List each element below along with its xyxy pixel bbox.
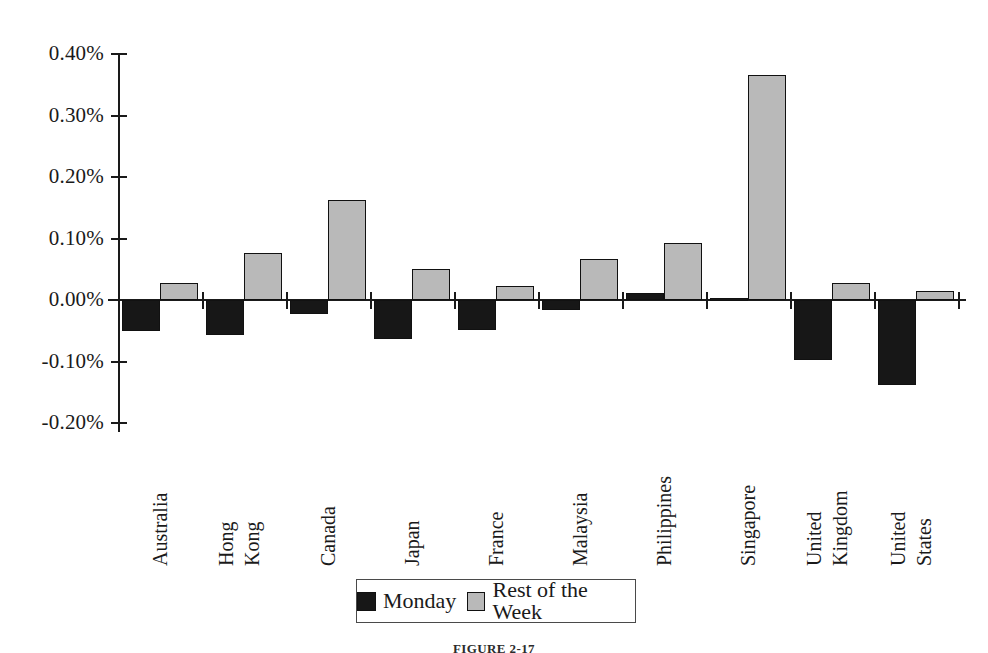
x-label-line: France	[486, 512, 506, 566]
bar-rest-of-week	[328, 200, 366, 300]
x-label-united-states: UnitedStates	[874, 440, 958, 566]
x-label-united-kingdom: UnitedKingdom	[790, 440, 874, 566]
x-label-line: Japan	[402, 520, 422, 566]
x-label-line: Singapore	[738, 485, 758, 566]
x-label-line: States	[914, 518, 934, 566]
x-label-line: United	[804, 512, 824, 566]
x-label-line: Canada	[318, 506, 338, 566]
bar-monday	[794, 300, 832, 360]
legend-item-monday: Monday	[357, 590, 456, 612]
bar-rest-of-week	[160, 283, 198, 300]
bar-rest-of-week	[748, 75, 786, 300]
y-tick-label: 0.10%	[18, 228, 104, 249]
y-tick-label: 0.00%	[18, 289, 104, 310]
x-label-line: Kong	[242, 522, 262, 566]
legend-label: Rest of the Week	[492, 579, 635, 623]
x-label-philippines: Philippines	[622, 440, 706, 566]
x-label-line: Kingdom	[830, 490, 850, 566]
y-tick-label: 0.40%	[18, 43, 104, 64]
x-label-france: France	[454, 440, 538, 566]
x-tick-mark	[958, 292, 960, 309]
plot-area	[118, 46, 958, 436]
x-label-line: Australia	[150, 493, 170, 566]
x-label-singapore: Singapore	[706, 440, 790, 566]
bar-monday	[626, 293, 664, 300]
bar-monday	[374, 300, 412, 339]
bar-rest-of-week	[580, 259, 618, 300]
x-label-malaysia: Malaysia	[538, 440, 622, 566]
bar-monday	[290, 300, 328, 314]
x-label-line: Hong	[216, 522, 236, 566]
bar-rest-of-week	[244, 253, 282, 300]
bar-rest-of-week	[916, 291, 954, 300]
bar-monday	[542, 300, 580, 310]
y-tick-label: 0.30%	[18, 105, 104, 126]
rest-of-week-swatch	[467, 592, 485, 611]
bar-rest-of-week	[412, 269, 450, 300]
chart-legend: MondayRest of the Week	[356, 579, 636, 623]
x-label-line: United	[888, 512, 908, 566]
monday-swatch	[357, 592, 376, 611]
x-label-australia: Australia	[118, 440, 202, 566]
figure-caption: FIGURE 2-17	[0, 641, 988, 653]
x-label-canada: Canada	[286, 440, 370, 566]
x-label-hong-kong: HongKong	[202, 440, 286, 566]
x-label-japan: Japan	[370, 440, 454, 566]
bar-chart: 0.40%0.30%0.20%0.10%0.00%-0.10%-0.20% Au…	[0, 0, 988, 653]
bar-monday	[878, 300, 916, 385]
y-tick-label: -0.10%	[18, 351, 104, 372]
bar-rest-of-week	[664, 243, 702, 300]
legend-item-rest-of-week: Rest of the Week	[467, 579, 635, 623]
bar-monday	[206, 300, 244, 335]
y-tick-label: 0.20%	[18, 166, 104, 187]
x-axis-labels: AustraliaHongKongCanadaJapanFranceMalays…	[118, 440, 958, 568]
bar-monday	[710, 298, 748, 301]
x-label-line: Malaysia	[570, 493, 590, 566]
bar-monday	[458, 300, 496, 330]
legend-label: Monday	[383, 590, 456, 612]
bar-monday	[122, 300, 160, 331]
bar-rest-of-week	[496, 286, 534, 300]
x-label-line: Philippines	[654, 476, 674, 566]
bar-rest-of-week	[832, 283, 870, 300]
y-tick-label: -0.20%	[18, 412, 104, 433]
